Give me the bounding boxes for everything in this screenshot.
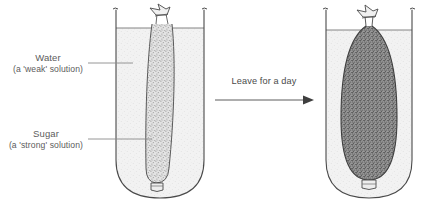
label-sugar-line1: Sugar: [2, 128, 90, 140]
label-sugar-line2: (a 'strong' solution): [2, 140, 90, 151]
beaker-rim-left-before: [113, 8, 118, 9]
process-arrow: [215, 96, 314, 105]
bag-tie-bottom-after: [362, 180, 376, 190]
bag-knot-top-after: [357, 5, 378, 17]
beaker-rim-left-after: [323, 8, 328, 9]
osmosis-diagram: [0, 0, 422, 206]
bag-tie-bottom-before: [151, 183, 163, 192]
beaker-rim-right-before: [202, 8, 207, 9]
beaker-rim-right-after: [410, 8, 415, 9]
label-water: Water (a 'weak' solution): [6, 52, 90, 75]
label-water-line2: (a 'weak' solution): [6, 64, 90, 75]
label-sugar: Sugar (a 'strong' solution): [2, 128, 90, 151]
bag-knot-top-before: [150, 4, 170, 15]
arrow-head: [303, 96, 314, 105]
label-water-line1: Water: [6, 52, 90, 64]
label-arrow-caption: Leave for a day: [213, 76, 315, 88]
